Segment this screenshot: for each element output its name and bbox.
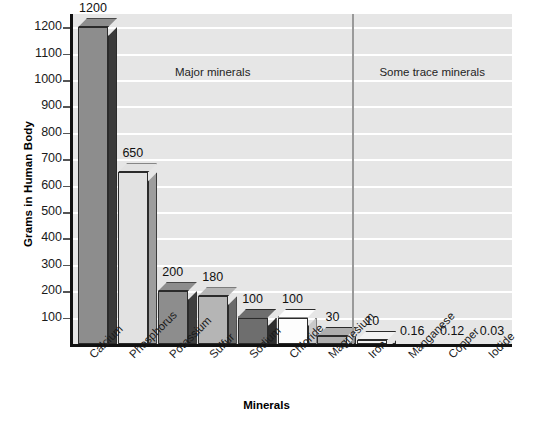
bar-front-face <box>118 172 148 344</box>
bar-top-face <box>78 18 117 27</box>
y-axis-tick-label: 1200 <box>14 19 62 33</box>
y-axis-tick <box>63 54 70 56</box>
bar <box>118 172 148 344</box>
y-axis-tick-label: 400 <box>14 230 62 244</box>
bar-top-face <box>238 309 277 318</box>
y-axis-tick <box>63 291 70 293</box>
y-axis-tick-label: 500 <box>14 204 62 218</box>
bar-value-label: 100 <box>263 292 323 306</box>
y-axis-tick <box>63 133 70 135</box>
gridline <box>73 133 512 135</box>
bar-side-face <box>148 172 157 344</box>
gridline <box>73 106 512 108</box>
y-axis-tick-label: 800 <box>14 125 62 139</box>
gridline <box>73 80 512 82</box>
group-annotation-major: Major minerals <box>73 66 352 78</box>
y-axis-tick <box>63 212 70 214</box>
y-axis-tick-label: 600 <box>14 178 62 192</box>
y-axis-line <box>70 14 73 346</box>
group-annotation-trace: Some trace minerals <box>352 66 512 78</box>
y-axis-tick <box>63 106 70 108</box>
bar-top-face <box>118 163 157 172</box>
x-axis-title: Minerals <box>0 399 533 411</box>
major-trace-divider <box>352 14 354 344</box>
y-axis-tick <box>63 27 70 29</box>
gridline <box>73 27 512 29</box>
y-axis-tick <box>63 186 70 188</box>
y-axis-tick <box>63 80 70 82</box>
bar-value-label: 180 <box>183 270 243 284</box>
y-axis-tick-label: 1000 <box>14 72 62 86</box>
y-axis-tick <box>63 159 70 161</box>
y-axis-tick <box>63 238 70 240</box>
gridline <box>73 54 512 56</box>
y-axis-tick <box>63 318 70 320</box>
bar-value-label: 650 <box>103 146 163 160</box>
y-axis-tick-label: 300 <box>14 257 62 271</box>
y-axis-tick-label: 900 <box>14 98 62 112</box>
y-axis-tick-label: 100 <box>14 310 62 324</box>
bar-chart-figure: Grams in Human Body Major mineralsSome t… <box>0 0 533 423</box>
y-axis-tick-label: 1100 <box>14 46 62 60</box>
y-axis-tick <box>63 265 70 267</box>
y-axis-tick-label: 200 <box>14 283 62 297</box>
bar-value-label: 1200 <box>63 1 123 15</box>
y-axis-tick-label: 700 <box>14 151 62 165</box>
